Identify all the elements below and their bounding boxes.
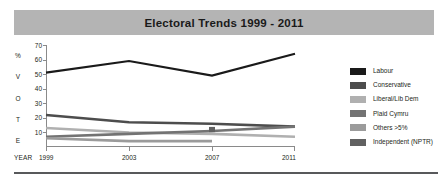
- y-axis-letter-2: O: [15, 95, 20, 102]
- legend-swatch-icon: [350, 68, 366, 75]
- x-axis-tick-labels: 1999200320072011: [0, 154, 448, 166]
- legend-item-label: Plaid Cymru: [373, 110, 408, 118]
- y-tick-mark: [43, 103, 47, 104]
- y-tick-label: 20: [35, 114, 42, 121]
- series-line-others-5: [46, 138, 212, 141]
- y-axis-tick-labels: 70605040302010: [26, 42, 42, 146]
- legend-item[interactable]: Liberal/Lib Dem: [350, 92, 446, 106]
- y-tick-mark: [43, 89, 47, 90]
- legend-item[interactable]: Labour: [350, 64, 446, 78]
- x-tick-label: 1999: [39, 154, 53, 162]
- y-axis-title: % V O T E: [12, 52, 24, 144]
- legend-swatch-icon: [350, 124, 366, 131]
- y-tick-mark: [43, 45, 47, 46]
- legend-item-label: Liberal/Lib Dem: [373, 95, 419, 103]
- page-title: Electoral Trends 1999 - 2011: [144, 17, 303, 29]
- footer-divider: [14, 172, 438, 174]
- y-tick-label: 60: [35, 56, 42, 63]
- legend-swatch-icon: [350, 139, 366, 146]
- x-tick-label: 2011: [282, 154, 296, 162]
- y-tick-label: 10: [35, 129, 42, 136]
- legend-item[interactable]: Independent (NPTR): [350, 135, 446, 149]
- series-line-labour: [46, 54, 295, 76]
- y-tick-mark: [43, 74, 47, 75]
- series-lines: [46, 45, 295, 147]
- y-tick-label: 70: [35, 42, 42, 49]
- y-axis-letter-0: %: [15, 52, 21, 59]
- x-tick-mark: [46, 147, 47, 151]
- legend-swatch-icon: [350, 82, 366, 89]
- y-tick-label: 50: [35, 71, 42, 78]
- x-tick-mark: [129, 147, 130, 151]
- legend-item-label: Independent (NPTR): [373, 138, 433, 146]
- legend-item-label: Conservative: [373, 81, 411, 89]
- y-tick-label: 30: [35, 100, 42, 107]
- legend-swatch-icon: [350, 110, 366, 117]
- series-line-conservative: [46, 115, 295, 127]
- plot-area: [46, 45, 295, 147]
- y-tick-label: 40: [35, 85, 42, 92]
- y-tick-mark: [43, 132, 47, 133]
- legend-item[interactable]: Others >5%: [350, 121, 446, 135]
- legend-item[interactable]: Plaid Cymru: [350, 107, 446, 121]
- y-tick-mark: [43, 118, 47, 119]
- x-tick-label: 2007: [205, 154, 219, 162]
- y-axis-letter-4: E: [16, 137, 20, 144]
- y-axis-letter-1: V: [16, 73, 20, 80]
- x-tick-mark: [212, 147, 213, 151]
- legend-item[interactable]: Conservative: [350, 78, 446, 92]
- legend-item-label: Others >5%: [373, 124, 408, 132]
- y-tick-mark: [43, 60, 47, 61]
- series-marker-independent-nptr: [209, 127, 215, 132]
- legend-swatch-icon: [350, 96, 366, 103]
- x-tick-label: 2003: [122, 154, 136, 162]
- y-axis-letter-3: T: [16, 116, 20, 123]
- x-tick-mark: [294, 147, 295, 151]
- legend-item-label: Labour: [373, 67, 393, 75]
- chart-legend: LabourConservativeLiberal/Lib DemPlaid C…: [350, 64, 446, 149]
- chart-title-banner: Electoral Trends 1999 - 2011: [14, 10, 434, 35]
